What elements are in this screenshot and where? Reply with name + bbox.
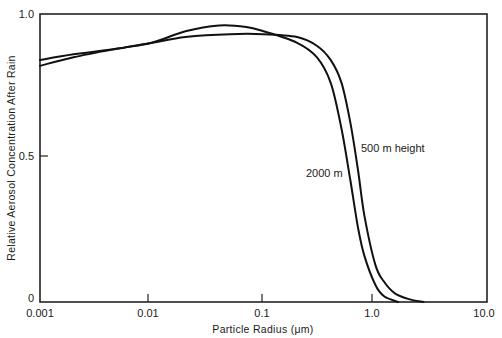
y-tick-label-0.5: 0.5 [19, 150, 34, 162]
annotation-2000m: 2000 m [306, 167, 343, 179]
y-tick-label-0: 0 [28, 292, 34, 304]
plot-frame [40, 14, 487, 302]
x-tick-label-0.01: 0.01 [137, 307, 158, 319]
y-tick-label-1.0: 1.0 [19, 8, 34, 20]
x-axis-title: Particle Radius (μm) [212, 323, 313, 335]
x-tick-label-0.001: 0.001 [26, 307, 54, 319]
annotation-500m-height: 500 m height [361, 142, 425, 154]
y-axis-title: Relative Aerosol Concentration After Rai… [5, 55, 17, 261]
x-tick-label-1.0: 1.0 [364, 307, 379, 319]
x-tick-label-0.1: 0.1 [254, 307, 269, 319]
curve-2000m [40, 25, 398, 302]
x-tick-label-10.0: 10.0 [473, 307, 494, 319]
chart-canvas: 1.0 0.5 0 0.001 0.01 0.1 1.0 10.0 Partic… [0, 0, 502, 338]
